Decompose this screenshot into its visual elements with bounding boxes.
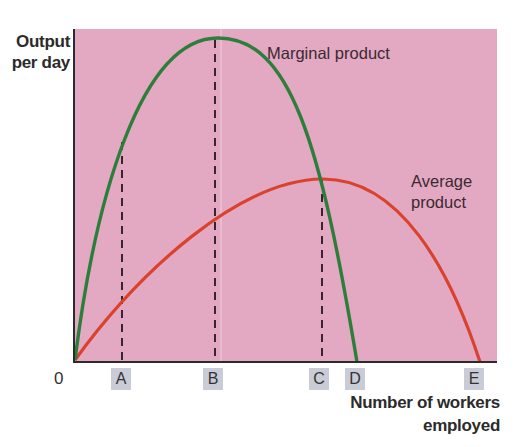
x-tick-c: C	[309, 368, 329, 390]
x-axis-label: Number of workers employed	[350, 391, 500, 437]
average-product-label-line2: product	[411, 192, 472, 213]
x-axis-label-line1: Number of workers	[350, 391, 500, 414]
chart: Output per day 0 A B C D E Number of wor…	[0, 0, 530, 447]
origin-label: 0	[54, 369, 63, 389]
marginal-product-label: Marginal product	[267, 43, 390, 64]
average-product-label-line1: Average	[411, 171, 472, 192]
y-axis-label-line1: Output	[2, 31, 70, 52]
x-tick-a: A	[111, 368, 131, 390]
y-axis-label: Output per day	[2, 31, 70, 73]
chart-plot	[0, 0, 530, 447]
x-tick-e: E	[464, 368, 484, 390]
x-tick-d: D	[345, 368, 365, 390]
y-axis-label-line2: per day	[2, 52, 70, 73]
x-axis-label-line2: employed	[350, 414, 500, 437]
x-tick-b: B	[203, 368, 223, 390]
average-product-label: Average product	[411, 171, 472, 213]
